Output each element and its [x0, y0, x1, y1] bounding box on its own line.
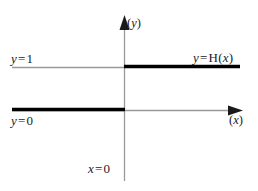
label-y-equals-one-value: 1 — [27, 51, 34, 66]
label-y-equals-zero-operator: = — [17, 113, 27, 128]
label-x-equals-zero-value: 0 — [104, 161, 111, 176]
label-h-function-name: H — [209, 50, 219, 65]
label-y-equals-zero-value: 0 — [27, 113, 34, 128]
x-axis-label: (x) — [229, 114, 243, 127]
label-h-operator: = — [199, 50, 209, 65]
x-axis-label-close-paren: ) — [239, 113, 243, 127]
label-y-equals-one: y=1 — [11, 52, 33, 65]
label-y-equals-one-operator: = — [17, 51, 27, 66]
heaviside-step-function-figure: y=1 y=0 y=H(x) x=0 (y) (x) — [0, 0, 258, 191]
label-h-close-paren: ) — [229, 50, 234, 65]
y-axis-label: (y) — [127, 17, 141, 30]
label-y-equals-h-of-x: y=H(x) — [193, 51, 233, 64]
label-x-equals-zero-operator: = — [94, 161, 104, 176]
label-x-equals-zero: x=0 — [88, 162, 110, 175]
label-y-equals-zero: y=0 — [11, 114, 33, 127]
y-axis-label-close-paren: ) — [137, 16, 141, 30]
